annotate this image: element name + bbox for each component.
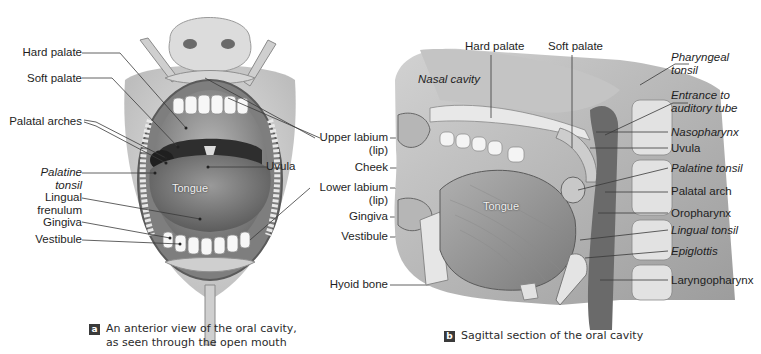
label-cheek: Cheek: [300, 161, 388, 174]
label-lower-labium-line2: (lip): [300, 194, 388, 207]
label-gingiva-a: Gingiva: [8, 216, 82, 229]
label-tongue-b: Tongue: [483, 200, 519, 212]
label-nasal-cavity: Nasal cavity: [418, 73, 480, 86]
label-lingual-tonsil: Lingual tonsil: [671, 224, 738, 237]
caption-b-line1: Sagittal section of the oral cavity: [461, 329, 643, 342]
label-nasopharynx: Nasopharynx: [671, 126, 739, 139]
label-laryngopharynx: Laryngopharynx: [671, 274, 753, 287]
label-auditory-tube-line1: Entrance to: [671, 89, 730, 102]
label-upper-labium-line1: Upper labium: [300, 131, 388, 144]
label-lower-labium-line1: Lower labium: [300, 181, 388, 194]
label-palatal-arch: Palatal arch: [671, 185, 732, 198]
caption-a: aAn anterior view of the oral cavity, as…: [89, 322, 297, 350]
label-lingual-frenulum-line1: Lingual: [8, 191, 82, 204]
label-gingiva-b: Gingiva: [300, 210, 388, 223]
anterior-view-drawing: [124, 18, 295, 346]
label-palatine-tonsil-a-line1: Palatine: [8, 166, 82, 179]
caption-a-line1: An anterior view of the oral cavity,: [106, 322, 297, 335]
caption-a-line2: as seen through the open mouth: [89, 336, 287, 349]
label-uvula-b: Uvula: [671, 142, 700, 155]
label-palatal-arches: Palatal arches: [0, 115, 82, 128]
label-tongue-a: Tongue: [172, 182, 208, 194]
label-epiglottis: Epiglottis: [671, 245, 718, 258]
label-vestibule-b: Vestibule: [300, 230, 388, 243]
caption-a-badge: a: [89, 324, 100, 335]
caption-b-badge: b: [444, 331, 455, 342]
label-uvula-a: Uvula: [266, 160, 295, 173]
label-soft-palate-b: Soft palate: [548, 40, 603, 53]
caption-b: bSagittal section of the oral cavity: [444, 329, 643, 343]
label-hard-palate-a: Hard palate: [8, 46, 82, 59]
label-hyoid-bone: Hyoid bone: [300, 278, 388, 291]
label-pharyngeal-tonsil-line1: Pharyngeal: [671, 51, 729, 64]
label-pharyngeal-tonsil-line2: tonsil: [671, 64, 698, 77]
label-hard-palate-b: Hard palate: [465, 40, 524, 53]
anatomy-illustration: [0, 0, 761, 354]
label-upper-labium-line2: (lip): [300, 144, 388, 157]
label-soft-palate-a: Soft palate: [8, 72, 82, 85]
label-auditory-tube-line2: auditory tube: [671, 102, 738, 115]
label-vestibule-a: Vestibule: [8, 233, 82, 246]
label-palatine-tonsil-b: Palatine tonsil: [671, 162, 743, 175]
label-oropharynx: Oropharynx: [671, 207, 731, 220]
